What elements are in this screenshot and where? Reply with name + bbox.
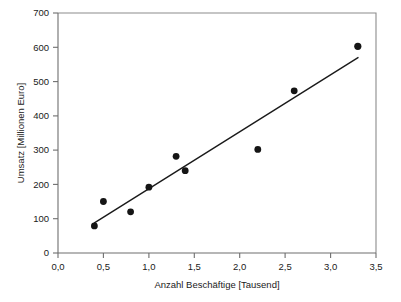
data-point <box>91 223 98 230</box>
y-tick-label: 500 <box>33 76 49 87</box>
y-axis-title: Umsatz [Millionen Euro] <box>15 83 26 183</box>
chart-canvas: 0 100 200 300 400 500 600 700 0,0 0,5 1,… <box>0 0 401 302</box>
scatter-chart: 0 100 200 300 400 500 600 700 0,0 0,5 1,… <box>0 0 401 302</box>
y-tick-label: 600 <box>33 42 49 53</box>
x-tick-label: 0,5 <box>97 261 110 272</box>
x-tick-label: 0,0 <box>51 261 64 272</box>
y-tick-label: 400 <box>33 110 49 121</box>
x-tick-label: 1,0 <box>142 261 155 272</box>
x-tick-label: 3,5 <box>369 261 382 272</box>
data-point <box>182 167 189 174</box>
y-tick-label: 300 <box>33 144 49 155</box>
data-point <box>354 43 361 50</box>
data-point <box>127 208 134 215</box>
x-tick-label: 3,0 <box>324 261 337 272</box>
y-tick-label: 100 <box>33 213 49 224</box>
x-axis-title: Anzahl Beschäftige [Tausend] <box>154 279 279 290</box>
data-point <box>254 146 261 153</box>
y-tick-label: 200 <box>33 179 49 190</box>
chart-background <box>0 0 401 302</box>
data-point <box>100 198 107 205</box>
x-tick-label: 2,5 <box>278 261 291 272</box>
y-tick-label: 0 <box>44 247 49 258</box>
y-tick-label: 700 <box>33 7 49 18</box>
data-point <box>146 184 153 191</box>
x-tick-label: 2,0 <box>233 261 246 272</box>
data-point <box>173 153 180 160</box>
x-tick-label: 1,5 <box>188 261 201 272</box>
data-point <box>291 87 298 94</box>
